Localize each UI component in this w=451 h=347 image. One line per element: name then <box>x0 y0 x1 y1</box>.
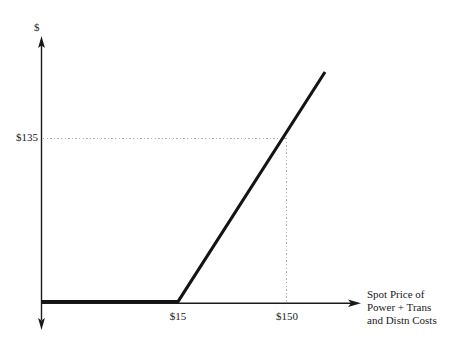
x-axis-tick-label-150: $150 <box>257 310 317 323</box>
y-axis-title: $ <box>34 21 40 34</box>
payoff-line <box>41 72 325 302</box>
payoff-chart-figure: $ $135 $15 $150 Spot Price of Power + Tr… <box>0 0 451 347</box>
x-axis-title-line-2: Power + Trans <box>367 301 451 314</box>
x-axis-title-line-1: Spot Price of <box>367 288 451 301</box>
x-axis-title-line-3: and Distn Costs <box>367 314 451 327</box>
y-axis-tick-label-135: $135 <box>0 131 38 144</box>
x-axis-tick-label-15: $15 <box>148 310 208 323</box>
x-axis-title: Spot Price of Power + Trans and Distn Co… <box>367 288 451 327</box>
